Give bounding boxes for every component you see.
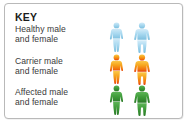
legend-row-healthy: Healthy male and female [5,24,182,54]
legend-row-carrier: Carrier male and female [5,56,182,86]
male-figure-icon [132,54,152,85]
legend-figures-healthy [106,22,178,54]
legend-label-healthy-line1: Healthy male [15,24,66,34]
legend-figures-carrier [106,54,178,86]
legend-label-healthy-line2: and female [15,34,101,44]
legend-figures-affected [106,85,178,117]
male-figure-icon [132,22,152,53]
female-figure-icon [108,54,125,84]
legend-label-affected: Affected male and female [15,87,101,108]
male-figure-icon [132,85,152,116]
legend-label-affected-line1: Affected male [15,87,68,97]
legend-label-carrier-line1: Carrier male [15,56,63,66]
legend-row-affected: Affected male and female [5,87,182,117]
legend-label-healthy: Healthy male and female [15,24,101,45]
legend-label-carrier: Carrier male and female [15,56,101,77]
key-legend-card: KEY Healthy male and female [4,3,183,119]
female-figure-icon [108,85,125,115]
legend-label-carrier-line2: and female [15,66,101,76]
female-figure-icon [108,22,125,52]
page-title: KEY [15,12,37,23]
legend-label-affected-line2: and female [15,97,101,107]
